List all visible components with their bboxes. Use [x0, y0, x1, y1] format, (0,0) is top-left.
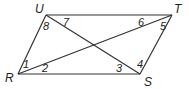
angle-label-3: 3 — [116, 62, 123, 74]
vertex-label-R: R — [5, 71, 14, 85]
parallelogram-diagram: U T S R 1 2 3 4 5 6 7 8 — [0, 0, 189, 89]
vertex-label-T: T — [174, 2, 183, 16]
vertex-label-U: U — [35, 2, 44, 16]
angle-label-6: 6 — [138, 16, 145, 28]
vertex-label-S: S — [144, 75, 152, 89]
angle-label-8: 8 — [43, 20, 50, 32]
angle-label-5: 5 — [160, 20, 167, 32]
angle-label-7: 7 — [63, 16, 70, 28]
angle-label-4: 4 — [137, 58, 143, 70]
angle-label-1: 1 — [23, 58, 29, 70]
side-TS — [140, 15, 172, 74]
diagonal-US — [46, 15, 140, 74]
angle-label-2: 2 — [41, 62, 48, 74]
